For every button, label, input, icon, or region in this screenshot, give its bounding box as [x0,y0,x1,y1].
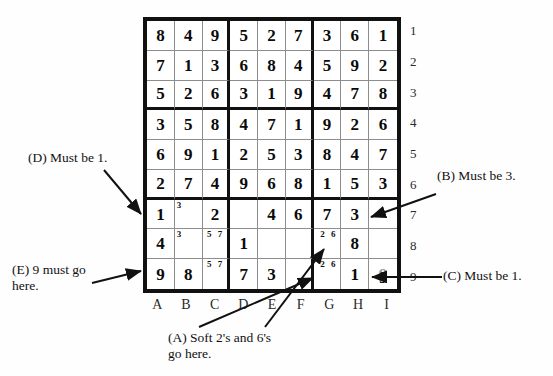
cell-I5[interactable]: 7 [369,140,397,170]
cell-value: 1 [156,206,165,223]
cell-A5[interactable]: 6 [147,140,175,170]
cell-value: 2 [184,85,193,102]
cell-value: 9 [294,85,303,102]
cell-F6[interactable]: 8 [286,170,314,200]
cell-F4[interactable]: 1 [286,110,314,140]
cell-B6[interactable]: 7 [175,170,203,200]
column-label-H: H [348,297,368,313]
cell-B9[interactable]: 8 [175,259,203,289]
cell-E9[interactable]: 3 [258,259,286,289]
cell-I3[interactable]: 8 [369,81,397,111]
cell-A3[interactable]: 5 [147,81,175,111]
cell-A2[interactable]: 7 [147,51,175,81]
cell-H9[interactable]: 1 [341,259,369,289]
cell-value: 2 [379,57,388,74]
cell-D9[interactable]: 7 [230,259,258,289]
cell-I7[interactable] [369,200,397,230]
cell-A6[interactable]: 2 [147,170,175,200]
cell-E8[interactable] [258,229,286,259]
cell-H5[interactable]: 4 [341,140,369,170]
cell-value: 6 [156,146,165,163]
cell-value: 1 [379,27,388,44]
cell-D4[interactable]: 4 [230,110,258,140]
cell-D1[interactable]: 5 [230,21,258,51]
cell-value: 1 [323,175,332,192]
cell-F8[interactable] [286,229,314,259]
pencil-marks: 5 7 [207,230,224,239]
cell-D8[interactable]: 1 [230,229,258,259]
cell-value: 9 [156,266,165,283]
cell-G3[interactable]: 4 [314,81,342,111]
cell-F3[interactable]: 9 [286,81,314,111]
cell-A4[interactable]: 3 [147,110,175,140]
pencil-marks: 2 6 [320,230,337,239]
cell-C4[interactable]: 8 [203,110,231,140]
cell-I2[interactable]: 2 [369,51,397,81]
cell-E2[interactable]: 8 [258,51,286,81]
cell-G4[interactable]: 9 [314,110,342,140]
cell-C1[interactable]: 9 [203,21,231,51]
cell-G6[interactable]: 1 [314,170,342,200]
cell-value: 3 [351,206,360,223]
cell-D3[interactable]: 3 [230,81,258,111]
cell-H3[interactable]: 7 [341,81,369,111]
cell-F1[interactable]: 7 [286,21,314,51]
cell-F5[interactable]: 3 [286,140,314,170]
cell-C3[interactable]: 6 [203,81,231,111]
cell-value: 1 [211,146,220,163]
cell-G8[interactable]: 2 6 [314,229,342,259]
cell-value: 7 [239,266,248,283]
cell-H6[interactable]: 5 [341,170,369,200]
cell-I1[interactable]: 1 [369,21,397,51]
cell-C6[interactable]: 4 [203,170,231,200]
cell-G5[interactable]: 8 [314,140,342,170]
cell-C2[interactable]: 3 [203,51,231,81]
cell-H1[interactable]: 6 [341,21,369,51]
cell-C7[interactable]: 2 [203,200,231,230]
cell-C8[interactable]: 5 7 [203,229,231,259]
cell-H4[interactable]: 2 [341,110,369,140]
column-label-I: I [377,297,397,313]
cell-E7[interactable]: 4 [258,200,286,230]
cell-value: 5 [351,175,360,192]
cell-G1[interactable]: 3 [314,21,342,51]
cell-value: 2 [211,206,220,223]
cell-H7[interactable]: 3 [341,200,369,230]
cell-D5[interactable]: 2 [230,140,258,170]
cell-E4[interactable]: 7 [258,110,286,140]
cell-D2[interactable]: 6 [230,51,258,81]
cell-E6[interactable]: 6 [258,170,286,200]
cell-G9[interactable]: 2 6 [314,259,342,289]
cell-E3[interactable]: 1 [258,81,286,111]
cell-H2[interactable]: 9 [341,51,369,81]
cell-A8[interactable]: 4 [147,229,175,259]
cell-E5[interactable]: 5 [258,140,286,170]
cell-I4[interactable]: 6 [369,110,397,140]
cell-I6[interactable]: 3 [369,170,397,200]
cell-B3[interactable]: 2 [175,81,203,111]
cell-I8[interactable] [369,229,397,259]
cell-value: 2 [239,146,248,163]
cell-B8[interactable]: 3 [175,229,203,259]
cell-G7[interactable]: 7 [314,200,342,230]
cell-A7[interactable]: 1 [147,200,175,230]
cell-B2[interactable]: 1 [175,51,203,81]
cell-F9[interactable] [286,259,314,289]
cell-B5[interactable]: 9 [175,140,203,170]
cell-C9[interactable]: 5 7 [203,259,231,289]
cell-E1[interactable]: 2 [258,21,286,51]
cell-G2[interactable]: 5 [314,51,342,81]
cell-B7[interactable]: 3 [175,200,203,230]
cell-A9[interactable]: 9 [147,259,175,289]
cell-F7[interactable]: 6 [286,200,314,230]
cell-B4[interactable]: 5 [175,110,203,140]
cell-C5[interactable]: 1 [203,140,231,170]
column-label-A: A [147,297,167,313]
cell-D7[interactable] [230,200,258,230]
cell-F2[interactable]: 4 [286,51,314,81]
cell-H8[interactable]: 8 [341,229,369,259]
column-label-C: C [205,297,225,313]
cell-D6[interactable]: 9 [230,170,258,200]
cell-B1[interactable]: 4 [175,21,203,51]
cell-A1[interactable]: 8 [147,21,175,51]
